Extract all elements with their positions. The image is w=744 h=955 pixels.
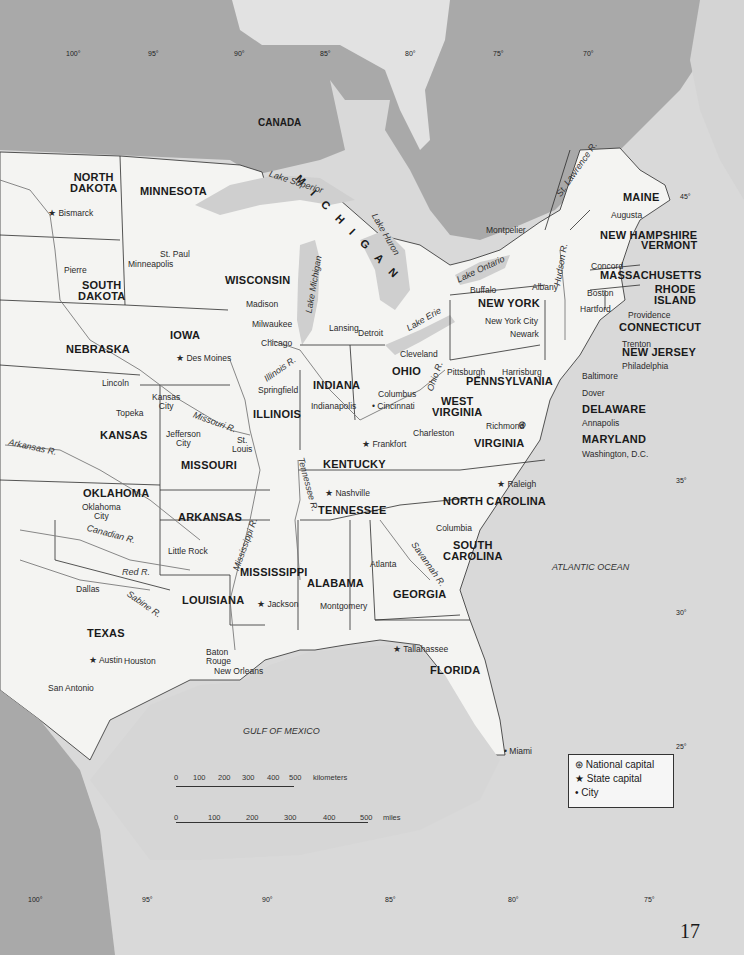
longitude-label: 95°	[142, 896, 153, 903]
city-minneapolis: Minneapolis	[128, 260, 173, 269]
state-label-vermont: VERMONT	[641, 240, 697, 251]
state-label-kentucky: KENTUCKY	[323, 459, 386, 470]
latitude-label: 25°	[676, 743, 687, 750]
map-legend: ⊛ National capital ★ State capital • Cit…	[568, 754, 674, 808]
state-label-maryland: MARYLAND	[582, 434, 646, 445]
state-label-new-york: NEW YORK	[478, 298, 540, 309]
scale-km-unit: kilometers	[313, 773, 347, 782]
city-milwaukee: Milwaukee	[252, 320, 292, 329]
state-label-illinois: ILLINOIS	[253, 409, 301, 420]
state-label-massachusetts: MASSACHUSETTS	[600, 270, 702, 281]
city-detroit: Detroit	[358, 329, 383, 338]
city-newark: Newark	[510, 330, 539, 339]
longitude-label: 75°	[493, 50, 504, 57]
state-label-rhode-island: RHODEISLAND	[654, 284, 696, 306]
city-boston: Boston	[587, 289, 613, 298]
city-austin: ★ Austin	[89, 656, 123, 665]
city-baltimore: Baltimore	[582, 372, 618, 381]
state-label-missouri: MISSOURI	[181, 460, 237, 471]
city-des-moines: ★ Des Moines	[176, 354, 231, 363]
state-label-south-carolina: SOUTHCAROLINA	[443, 540, 503, 562]
scale-km-tick: 500	[289, 773, 302, 782]
longitude-label: 75°	[644, 896, 655, 903]
state-label-arkansas: ARKANSAS	[178, 512, 242, 523]
water-label-atlantic-ocean: ATLANTIC OCEAN	[552, 563, 629, 572]
state-label-iowa: IOWA	[170, 330, 200, 341]
city-providence: Providence	[628, 311, 671, 320]
state-label-kansas: KANSAS	[100, 430, 148, 441]
city-raleigh: ★ Raleigh	[497, 480, 536, 489]
city-buffalo: Buffalo	[470, 286, 496, 295]
city-st-louis: St.Louis	[232, 436, 252, 453]
page-number: 17	[680, 920, 700, 943]
scale-mi-tick: 500	[360, 813, 373, 822]
longitude-label: 90°	[234, 50, 245, 57]
scale-mi-tick: 200	[246, 813, 259, 822]
scale-mi-tick: 0	[174, 813, 178, 822]
city-pierre: Pierre	[64, 266, 87, 275]
state-label-mississippi: MISSISSIPPI	[240, 567, 308, 578]
water-label-gulf-of-mexico: GULF OF MEXICO	[243, 727, 320, 736]
longitude-label: 85°	[320, 50, 331, 57]
city-harrisburg: Harrisburg	[502, 368, 542, 377]
legend-item-national-capital: ⊛ National capital	[575, 759, 667, 770]
city-trenton: Trenton	[622, 340, 651, 349]
longitude-label: 95°	[148, 50, 159, 57]
scale-km-tick: 400	[267, 773, 280, 782]
city-tallahassee: ★ Tallahassee	[393, 645, 448, 654]
city-atlanta: Atlanta	[370, 560, 396, 569]
state-label-oklahoma: OKLAHOMA	[83, 488, 149, 499]
city-little-rock: Little Rock	[168, 547, 208, 556]
longitude-label: 80°	[405, 50, 416, 57]
state-label-tennessee: TENNESSEE	[318, 505, 386, 516]
state-label-north-carolina: NORTH CAROLINA	[443, 496, 546, 507]
city-concord: Concord	[591, 262, 623, 271]
scale-mi-tick: 100	[208, 813, 221, 822]
city-columbia: Columbia	[436, 524, 472, 533]
state-label-delaware: DELAWARE	[582, 404, 646, 415]
city-pittsburgh: Pittsburgh	[447, 368, 485, 377]
city-lincoln: Lincoln	[102, 379, 129, 388]
legend-item-city: • City	[575, 787, 667, 798]
map-canvas	[0, 0, 744, 955]
national-capital-icon: ⊛	[518, 420, 526, 430]
state-label-south-dakota: SOUTHDAKOTA	[78, 280, 125, 302]
longitude-label: 80°	[508, 896, 519, 903]
scale-mi-unit: miles	[383, 813, 401, 822]
city-st-paul: St. Paul	[160, 250, 190, 259]
city-montpelier: Montpelier	[486, 226, 526, 235]
longitude-label: 85°	[385, 896, 396, 903]
city-washington-dc: Washington, D.C.	[582, 450, 648, 459]
city-augusta: Augusta	[611, 211, 642, 220]
city-hartford: Hartford	[580, 305, 611, 314]
city-bismarck: ★ Bismarck	[48, 209, 93, 218]
city-dallas: Dallas	[76, 585, 100, 594]
city-dover: Dover	[582, 389, 605, 398]
city-new-orleans: New Orleans	[214, 667, 263, 676]
state-label-georgia: GEORGIA	[393, 589, 446, 600]
longitude-label: 70°	[583, 50, 594, 57]
longitude-label: 100°	[28, 896, 42, 903]
scale-mi-tick: 300	[284, 813, 297, 822]
state-label-florida: FLORIDA	[430, 665, 480, 676]
city-madison: Madison	[246, 300, 278, 309]
state-label-maine: MAINE	[623, 192, 659, 203]
state-label-ohio: OHIO	[392, 366, 421, 377]
city-columbus: Columbus	[378, 390, 416, 399]
state-label-alabama: ALABAMA	[307, 578, 364, 589]
scale-km-tick: 200	[218, 773, 231, 782]
city-baton-rouge: BatonRouge	[206, 648, 231, 665]
city-frankfort: ★ Frankfort	[362, 440, 406, 449]
city-jefferson-city: JeffersonCity	[166, 430, 201, 447]
state-label-wisconsin: WISCONSIN	[225, 275, 290, 286]
city-lansing: Lansing	[329, 324, 359, 333]
city-jackson: ★ Jackson	[257, 600, 299, 609]
country-label-canada: CANADA	[258, 118, 301, 128]
city-nashville: ★ Nashville	[325, 489, 370, 498]
water-label-red-river: Red R.	[122, 568, 150, 577]
city-chicago: Chicago	[261, 339, 292, 348]
state-label-new-hampshire: NEW HAMPSHIRE	[600, 230, 697, 241]
scale-mi-tick: 400	[323, 813, 336, 822]
city-new-york-city: New York City	[485, 317, 538, 326]
city-topeka: Topeka	[116, 409, 143, 418]
